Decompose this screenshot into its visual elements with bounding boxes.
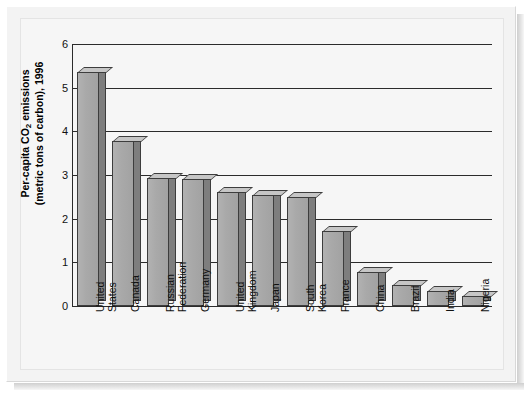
y-axis-title-subscript: 2 bbox=[24, 124, 33, 128]
y-axis-tick-label: 6 bbox=[40, 39, 68, 50]
x-axis-tick-label: Japan bbox=[269, 238, 281, 312]
y-axis-tick-label: 4 bbox=[40, 126, 68, 137]
x-axis-tick-label: United Kingdom bbox=[234, 238, 258, 312]
x-axis-tick-label: United States bbox=[94, 238, 118, 312]
x-axis-tick-label: Germany bbox=[199, 238, 211, 312]
y-axis-title-line1: Per-capita CO bbox=[19, 128, 31, 197]
y-axis-tick-label: 1 bbox=[40, 257, 68, 268]
y-axis-tick-label: 5 bbox=[40, 82, 68, 93]
chart-figure: Per-capita CO2 emissions(metric tons of … bbox=[0, 0, 532, 401]
y-axis-tick-label: 3 bbox=[40, 170, 68, 181]
x-axis-tick-label: Canada bbox=[129, 238, 141, 312]
y-axis-tick-label: 2 bbox=[40, 213, 68, 224]
x-axis-tick-label: Nigeria bbox=[479, 238, 491, 312]
page-shadow-right bbox=[517, 14, 524, 390]
y-axis-title-line1-rest: emissions bbox=[19, 69, 31, 123]
y-axis-tick-labels: 0123456 bbox=[38, 44, 68, 306]
x-axis-tick-label: Brazil bbox=[409, 238, 421, 312]
x-axis-tick-label: India bbox=[444, 238, 456, 312]
page-shadow-bottom bbox=[14, 383, 524, 390]
gridline bbox=[72, 44, 492, 45]
y-axis-line bbox=[72, 44, 73, 306]
gridline bbox=[72, 131, 492, 132]
gridline bbox=[72, 88, 492, 89]
x-axis-tick-label: South Korea bbox=[304, 238, 328, 312]
y-axis-tick-label: 0 bbox=[40, 301, 68, 312]
x-axis-tick-label: Russian Federation bbox=[164, 238, 188, 312]
x-axis-tick-label: China bbox=[374, 238, 386, 312]
x-axis-tick-label: France bbox=[339, 238, 351, 312]
